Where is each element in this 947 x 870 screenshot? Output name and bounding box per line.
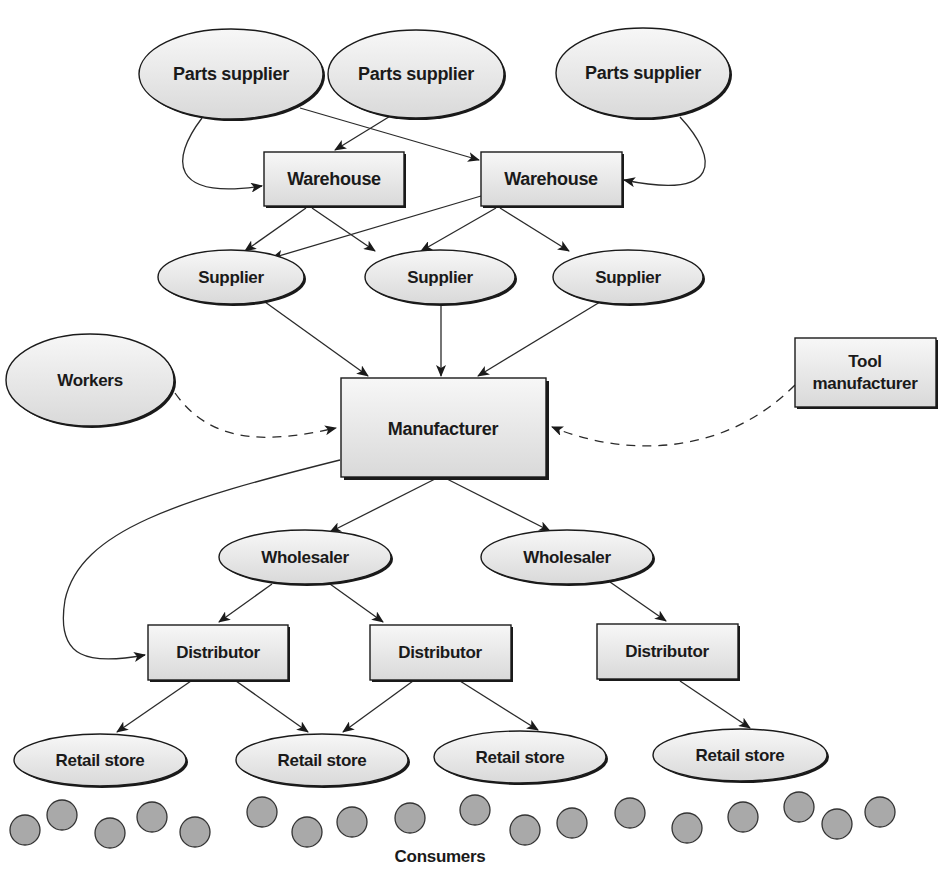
- supplier-node-2: Supplier: [365, 250, 517, 306]
- consumer-dot: [137, 802, 167, 832]
- supply-chain-diagram: Parts supplier Parts supplier Parts supp…: [0, 0, 947, 870]
- consumer-dot: [10, 815, 40, 845]
- retail-store-label-3: Retail store: [476, 748, 565, 767]
- consumer-dot: [95, 818, 125, 848]
- edge-parts1-warehouse1: [183, 118, 262, 189]
- edge-distributor2-retail2: [343, 681, 413, 732]
- consumer-dot: [557, 808, 587, 838]
- wholesaler-node-2: Wholesaler: [481, 530, 655, 586]
- distributor-node-1: Distributor: [148, 625, 290, 682]
- parts-supplier-node-3: Parts supplier: [556, 28, 732, 120]
- edge-tool-manufacturer: [552, 385, 795, 446]
- edge-parts3-warehouse2: [624, 117, 705, 185]
- edge-wholesaler1-distributor2: [330, 584, 383, 622]
- consumer-dot: [728, 802, 758, 832]
- retail-store-node-3: Retail store: [434, 731, 608, 785]
- retail-store-label-4: Retail store: [696, 746, 785, 765]
- consumer-dot: [672, 813, 702, 843]
- consumer-dot: [460, 795, 490, 825]
- edge-manufacturer-wholesaler1: [330, 479, 435, 532]
- consumers-group: Consumers: [10, 792, 895, 866]
- distributor-label-1: Distributor: [176, 643, 260, 662]
- parts-supplier-label-2: Parts supplier: [358, 64, 474, 84]
- retail-store-label-1: Retail store: [56, 751, 145, 770]
- edge-distributor1-retail1: [117, 681, 191, 732]
- tool-manufacturer-label-line1: Tool: [848, 352, 881, 371]
- consumer-dot: [292, 817, 322, 847]
- edge-workers-manufacturer: [175, 393, 336, 437]
- manufacturer-node: Manufacturer: [341, 378, 549, 480]
- parts-supplier-node-1: Parts supplier: [139, 29, 325, 121]
- parts-supplier-node-2: Parts supplier: [328, 30, 506, 120]
- edge-distributor3-retail4: [680, 681, 750, 728]
- retail-store-node-2: Retail store: [236, 734, 410, 788]
- edge-warehouse1-supplier1: [245, 208, 306, 251]
- workers-node: Workers: [6, 334, 176, 428]
- consumer-dot: [510, 815, 540, 845]
- edge-warehouse2-supplier3: [500, 208, 569, 251]
- parts-supplier-label-3: Parts supplier: [585, 63, 701, 83]
- tool-manufacturer-node: Tool manufacturer: [795, 338, 938, 409]
- warehouse-node-1: Warehouse: [264, 152, 406, 208]
- edge-manufacturer-wholesaler2: [447, 479, 550, 531]
- distributor-node-2: Distributor: [370, 625, 513, 682]
- edge-distributor2-retail3: [460, 681, 538, 730]
- consumer-dot: [247, 797, 277, 827]
- warehouse-node-2: Warehouse: [481, 152, 624, 208]
- consumer-dot: [395, 803, 425, 833]
- consumer-dot: [865, 797, 895, 827]
- edge-warehouse1-supplier2: [312, 208, 375, 251]
- consumer-dot: [337, 807, 367, 837]
- manufacturer-label: Manufacturer: [388, 419, 499, 439]
- supplier-node-3: Supplier: [553, 250, 705, 306]
- consumer-dot: [615, 798, 645, 828]
- wholesaler-label-1: Wholesaler: [261, 548, 349, 567]
- edge-supplier1-manufacturer: [265, 302, 368, 376]
- warehouse-label-1: Warehouse: [287, 169, 381, 189]
- supplier-node-1: Supplier: [158, 250, 306, 306]
- consumer-dot: [822, 809, 852, 839]
- distributor-label-3: Distributor: [625, 642, 709, 661]
- consumers-label: Consumers: [395, 847, 486, 866]
- edge-wholesaler1-distributor1: [219, 584, 272, 622]
- consumer-dot: [180, 817, 210, 847]
- retail-store-node-4: Retail store: [653, 729, 829, 783]
- wholesaler-label-2: Wholesaler: [523, 548, 611, 567]
- distributor-label-2: Distributor: [398, 643, 482, 662]
- consumer-dot: [784, 792, 814, 822]
- edge-warehouse2-supplier2: [421, 208, 496, 251]
- consumer-dot: [47, 800, 77, 830]
- workers-label: Workers: [57, 371, 123, 390]
- edge-distributor1-retail2: [236, 681, 308, 732]
- distributor-node-3: Distributor: [597, 624, 740, 681]
- supplier-label-2: Supplier: [407, 268, 473, 287]
- supplier-label-3: Supplier: [595, 268, 661, 287]
- retail-store-node-1: Retail store: [14, 734, 188, 788]
- parts-supplier-label-1: Parts supplier: [173, 64, 289, 84]
- wholesaler-node-1: Wholesaler: [219, 530, 393, 586]
- retail-store-label-2: Retail store: [278, 751, 367, 770]
- tool-manufacturer-label-line2: manufacturer: [812, 374, 918, 393]
- supplier-label-1: Supplier: [198, 268, 264, 287]
- warehouse-label-2: Warehouse: [504, 169, 598, 189]
- edge-wholesaler2-distributor3: [610, 582, 666, 621]
- edge-supplier3-manufacturer: [478, 302, 600, 376]
